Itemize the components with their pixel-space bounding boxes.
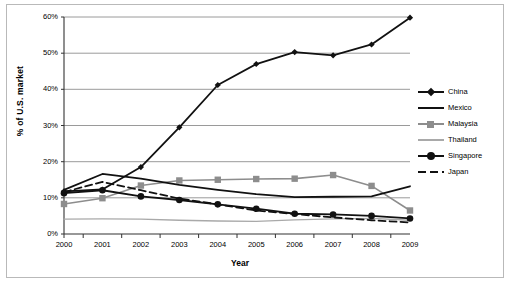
- x-tick-label: 2003: [161, 240, 197, 249]
- data-point-singapore: [214, 201, 221, 208]
- x-tick-label: 2002: [123, 240, 159, 249]
- data-point-singapore: [253, 205, 260, 212]
- legend-swatch-thailand: [418, 134, 444, 146]
- legend-item-singapore[interactable]: Singapore: [418, 148, 506, 164]
- data-point-malaysia: [368, 183, 374, 189]
- y-tick-label: 0%: [32, 229, 58, 238]
- data-point-malaysia: [330, 172, 336, 178]
- data-point-singapore: [407, 215, 414, 222]
- data-point-malaysia: [215, 177, 221, 183]
- data-point-singapore: [291, 210, 298, 217]
- legend-item-malaysia[interactable]: Malaysia: [418, 116, 506, 132]
- circle-marker-icon: [427, 152, 435, 160]
- x-axis-title: Year: [150, 258, 330, 268]
- dashed-line-icon: [418, 171, 444, 173]
- y-tick-label: 50%: [32, 48, 58, 57]
- chart-legend: ChinaMexicoMalaysiaThailandSingaporeJapa…: [418, 84, 506, 180]
- diamond-marker-icon: [427, 88, 435, 96]
- legend-label: Japan: [448, 167, 468, 177]
- x-tick-label: 2008: [354, 240, 390, 249]
- data-point-singapore: [368, 213, 375, 220]
- chart-figure: % of U.S. market Year 200020012002200320…: [0, 0, 512, 283]
- legend-swatch-singapore: [418, 150, 444, 162]
- y-tick-label: 30%: [32, 121, 58, 130]
- data-point-malaysia: [138, 182, 144, 188]
- x-tick-label: 2006: [277, 240, 313, 249]
- legend-label: China: [448, 87, 468, 97]
- data-point-singapore: [176, 197, 183, 204]
- data-point-malaysia: [99, 195, 105, 201]
- x-tick-label: 2000: [46, 240, 82, 249]
- data-point-singapore: [138, 193, 145, 200]
- data-point-malaysia: [407, 207, 413, 213]
- legend-label: Singapore: [448, 151, 482, 161]
- y-tick-label: 60%: [32, 12, 58, 21]
- legend-item-japan[interactable]: Japan: [418, 164, 506, 180]
- line-icon: [418, 107, 444, 109]
- data-point-malaysia: [176, 177, 182, 183]
- square-marker-icon: [427, 121, 434, 128]
- data-point-malaysia: [291, 175, 297, 181]
- legend-label: Malaysia: [448, 119, 478, 129]
- legend-item-thailand[interactable]: Thailand: [418, 132, 506, 148]
- data-point-malaysia: [253, 176, 259, 182]
- x-tick-label: 2009: [392, 240, 428, 249]
- data-point-singapore: [330, 211, 337, 218]
- line-icon: [418, 139, 444, 141]
- y-tick-label: 20%: [32, 157, 58, 166]
- y-axis-title: % of U.S. market: [15, 41, 25, 161]
- legend-item-mexico[interactable]: Mexico: [418, 100, 506, 116]
- legend-label: Thailand: [448, 135, 477, 145]
- y-tick-label: 40%: [32, 84, 58, 93]
- legend-swatch-china: [418, 86, 444, 98]
- series-line-japan: [64, 182, 410, 223]
- x-tick-label: 2004: [200, 240, 236, 249]
- legend-item-china[interactable]: China: [418, 84, 506, 100]
- x-tick-label: 2007: [315, 240, 351, 249]
- series-line-china: [64, 18, 410, 192]
- x-tick-label: 2005: [238, 240, 274, 249]
- data-point-china: [292, 49, 298, 55]
- data-point-malaysia: [61, 201, 67, 207]
- y-tick-label: 10%: [32, 193, 58, 202]
- legend-swatch-japan: [418, 166, 444, 178]
- x-tick-label: 2001: [84, 240, 120, 249]
- legend-label: Mexico: [448, 103, 472, 113]
- legend-swatch-malaysia: [418, 118, 444, 130]
- legend-swatch-mexico: [418, 102, 444, 114]
